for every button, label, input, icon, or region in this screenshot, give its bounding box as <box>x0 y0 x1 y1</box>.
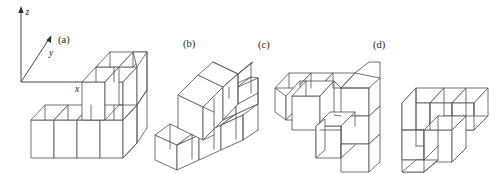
a-edge <box>137 128 147 143</box>
a-front-face <box>31 120 54 158</box>
d-front-face <box>402 130 424 160</box>
a-front-face <box>100 120 123 158</box>
a-front-face <box>82 82 105 120</box>
x-axis-label: x <box>74 84 80 94</box>
b-edge <box>243 130 258 140</box>
z-axis-label: z <box>25 7 30 17</box>
polycube-view-d <box>402 88 488 172</box>
c-front-face <box>275 88 286 120</box>
polycube-view-b <box>155 62 258 170</box>
c-front-face <box>292 96 320 130</box>
a-front-face <box>77 120 100 158</box>
polycube-view-c <box>275 62 380 172</box>
c-front-face <box>341 144 369 172</box>
z-axis-arrowhead <box>18 6 23 13</box>
polycube-view-a <box>31 52 147 158</box>
c-edge <box>355 73 380 78</box>
a-front-face <box>54 120 77 158</box>
y-axis-line <box>21 39 49 82</box>
panel-label-d: (d) <box>373 39 386 51</box>
panel-label-a: (a) <box>58 34 70 46</box>
panel-label-b: (b) <box>183 38 196 50</box>
b-edge <box>238 63 251 74</box>
figure-root: z y x (a) (b) (c) (d) <box>0 0 500 174</box>
figure-canvas: z y x (a) (b) (c) (d) <box>0 0 500 174</box>
b-edge <box>251 77 258 78</box>
y-axis-label: y <box>48 48 54 58</box>
panel-label-c: (c) <box>258 39 270 51</box>
